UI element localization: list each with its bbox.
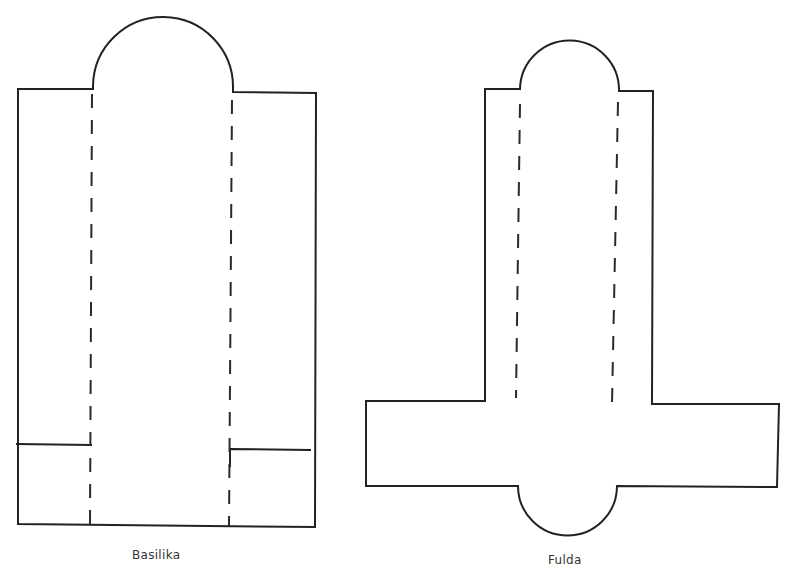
fulda-left-column-row (516, 104, 520, 398)
basilika-left-column-row (90, 94, 92, 524)
fulda-right-column-row (612, 102, 618, 404)
fulda-plan (366, 41, 779, 536)
basilika-right-aisle-wall (230, 449, 310, 466)
basilika-plan (17, 17, 316, 527)
basilika-left-aisle-wall (17, 444, 91, 445)
fulda-outer-wall (366, 41, 779, 536)
basilika-caption: Basilika (132, 548, 180, 562)
fulda-caption: Fulda (548, 553, 582, 567)
church-floor-plans-diagram (0, 0, 789, 577)
